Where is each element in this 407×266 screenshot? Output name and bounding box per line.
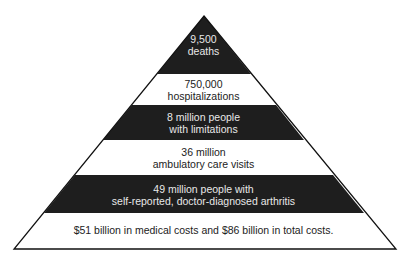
tier-3-value: 8 million people	[0, 111, 407, 123]
tier-3-description: with limitations	[0, 123, 407, 135]
cropped-caption	[0, 256, 407, 266]
tier-1-description: deaths	[0, 45, 407, 57]
tier-2-description: hospitalizations	[0, 90, 407, 102]
tier-4-description: ambulatory care visits	[0, 158, 407, 170]
tier-6-value: $51 billion in medical costs and $86 bil…	[0, 224, 407, 236]
tier-2-label: 750,000 hospitalizations	[0, 78, 407, 102]
tier-4-label: 36 million ambulatory care visits	[0, 146, 407, 170]
tier-5-label: 49 million people with self-reported, do…	[0, 183, 407, 207]
tier-1-value: 9,500	[0, 33, 407, 45]
tier-2-value: 750,000	[0, 78, 407, 90]
tier-6-label: $51 billion in medical costs and $86 bil…	[0, 224, 407, 236]
tier-4-value: 36 million	[0, 146, 407, 158]
tier-3-label: 8 million people with limitations	[0, 111, 407, 135]
tier-5-description: self-reported, doctor-diagnosed arthriti…	[0, 195, 407, 207]
tier-1-label: 9,500 deaths	[0, 33, 407, 57]
tier-5-value: 49 million people with	[0, 183, 407, 195]
